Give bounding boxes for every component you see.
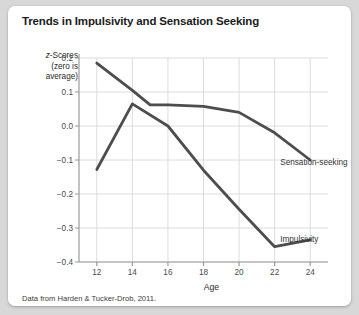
x-axis-tick-label: 14: [128, 268, 137, 277]
x-axis-tick-label: 20: [235, 268, 244, 277]
source-note: Data from Harden & Tucker-Drob, 2011.: [22, 294, 156, 303]
y-axis-tick-label: −0.4: [38, 258, 73, 267]
series-label-impulsivity: Impulsivity: [280, 234, 318, 243]
y-axis-tick-label: −0.3: [38, 224, 73, 233]
x-axis-tick-label: 22: [270, 268, 279, 277]
y-axis-tick-label: 0.2: [38, 54, 73, 63]
x-axis-tick-label: 12: [92, 268, 101, 277]
chart-card: Trends in Impulsivity and Sensation Seek…: [8, 6, 351, 306]
series-label-sensation-seeking: Sensation-seeking: [280, 157, 347, 166]
y-axis-tick-label: 0.1: [38, 88, 73, 97]
x-axis-tick-label: 16: [163, 268, 172, 277]
x-axis-tick-label: 24: [306, 268, 315, 277]
y-axis-tick-label: −0.1: [38, 156, 73, 165]
x-axis-tick-label: 18: [199, 268, 208, 277]
x-axis-title: Age: [204, 282, 219, 292]
y-axis-tick-label: −0.2: [38, 190, 73, 199]
y-axis-tick-label: 0.0: [38, 122, 73, 131]
